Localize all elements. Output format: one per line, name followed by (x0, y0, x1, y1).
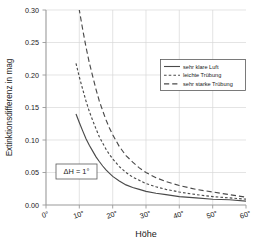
legend-label-0: sehr klare Luft (183, 64, 219, 70)
annotation-box: ΔH = 1° (56, 164, 97, 179)
ytick-label-0.15: 0.15 (25, 103, 39, 112)
y-axis-label: Extinktionsdifferenz in mag (5, 58, 14, 156)
ytick-label-0.00: 0.00 (25, 201, 39, 210)
legend[interactable]: sehr klare Luft leichte Trübung sehr sta… (161, 60, 246, 91)
ytick-label-0.20: 0.20 (25, 71, 39, 80)
ytick-label-0.10: 0.10 (25, 136, 39, 145)
ytick-label-0.30: 0.30 (25, 6, 39, 15)
extinction-difference-line-chart: 0.30 0.25 0.20 0.15 0.10 0.05 0.00 0° 10… (0, 0, 257, 244)
x-axis-label: Höhe (135, 229, 157, 239)
ytick-label-0.05: 0.05 (25, 168, 39, 177)
ytick-label-0.25: 0.25 (25, 38, 39, 47)
legend-label-2: sehr starke Trübung (183, 81, 233, 87)
annotation-label: ΔH = 1° (64, 167, 90, 176)
legend-label-1: leichte Trübung (183, 72, 221, 78)
chart-figure: 0.30 0.25 0.20 0.15 0.10 0.05 0.00 0° 10… (0, 0, 257, 244)
